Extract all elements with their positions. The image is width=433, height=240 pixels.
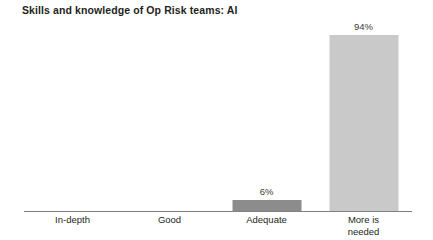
bar-more-is-needed[interactable] (329, 35, 398, 211)
category-label-good-line1: Good (121, 214, 218, 226)
bar-adequate[interactable] (232, 200, 301, 211)
x-axis-category-labels: In-depth Good Adequate More is needed (24, 214, 412, 240)
bar-slot-more-is-needed: 94% (315, 24, 412, 211)
category-label-adequate-line1: Adequate (218, 214, 315, 226)
bar-slot-adequate: 6% (218, 24, 315, 211)
x-axis-line (24, 211, 412, 212)
bar-chart-figure: Skills and knowledge of Op Risk teams: A… (0, 0, 433, 240)
bar-value-label-more-is-needed: 94% (354, 21, 373, 32)
bar-value-label-adequate: 6% (260, 186, 274, 197)
plot-area: 6% 94% (24, 24, 412, 212)
category-label-adequate: Adequate (218, 214, 315, 226)
category-label-in-depth: In-depth (24, 214, 121, 226)
chart-title: Skills and knowledge of Op Risk teams: A… (22, 4, 238, 16)
category-label-more-is-needed-line1: More is (315, 214, 412, 226)
bar-slot-in-depth (24, 24, 121, 211)
bar-slot-good (121, 24, 218, 211)
category-label-in-depth-line1: In-depth (24, 214, 121, 226)
category-label-more-is-needed-line2: needed (315, 226, 412, 238)
category-label-more-is-needed: More is needed (315, 214, 412, 237)
category-label-good: Good (121, 214, 218, 226)
